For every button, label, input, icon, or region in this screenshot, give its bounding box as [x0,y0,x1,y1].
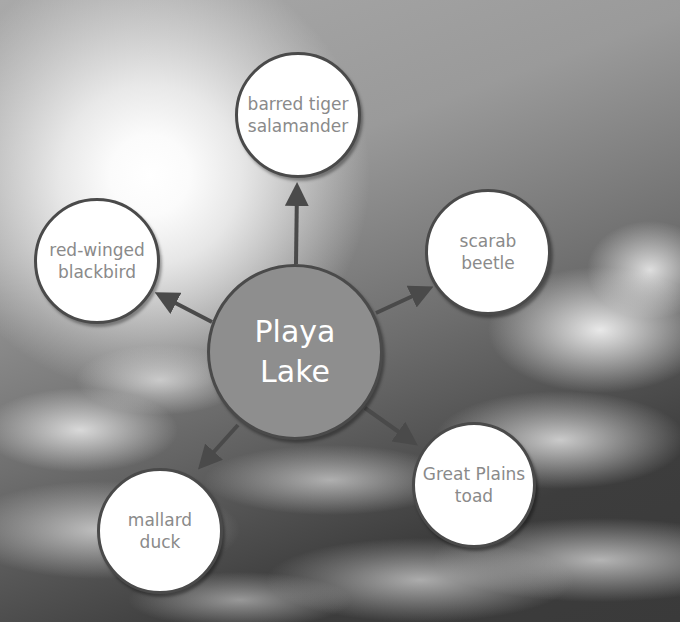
node-great-plains-toad: Great Plains toad [412,422,536,548]
center-node-playa-lake: Playa Lake [207,264,383,440]
bottom-margin [0,622,680,639]
node-red-winged-blackbird: red-winged blackbird [34,198,160,324]
node-label: red-winged blackbird [49,239,144,283]
node-barred-tiger-salamander: barred tiger salamander [235,52,361,178]
node-label: scarab beetle [460,230,517,274]
arrow-to-left [160,295,212,322]
diagram-canvas: Playa Lake barred tiger salamander red-w… [0,0,680,622]
node-label: Great Plains toad [423,463,525,507]
node-scarab-beetle: scarab beetle [425,189,551,315]
arrow-to-top [296,188,297,264]
node-mallard-duck: mallard duck [97,468,223,594]
arrow-to-lower-left [202,425,238,465]
arrow-to-right [376,289,428,313]
center-node-label: Playa Lake [255,312,336,392]
node-label: barred tiger salamander [248,93,349,137]
arrow-to-lower-right [365,408,413,442]
node-label: mallard duck [128,509,192,553]
